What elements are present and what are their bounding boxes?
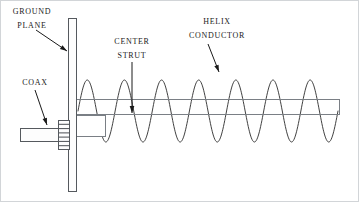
label-ground-plane-line1: GROUND bbox=[13, 7, 51, 16]
arrow-head-coax bbox=[43, 118, 47, 125]
label-coax: COAX bbox=[22, 78, 47, 87]
ground-plane-bar bbox=[69, 19, 77, 192]
label-center-strut-line2: STRUT bbox=[118, 51, 147, 60]
label-helix-conductor-line1: HELIX bbox=[203, 17, 231, 26]
label-center-strut-line1: CENTER bbox=[114, 37, 149, 46]
diagram-canvas: GROUND PLANE COAX CENTER STRUT HELIX CON… bbox=[0, 0, 359, 202]
coax-cable-body bbox=[21, 129, 59, 142]
arrow-head-helix-conductor bbox=[214, 65, 219, 72]
feed-connection-block bbox=[77, 116, 106, 137]
coax-threaded-flange bbox=[59, 121, 70, 150]
helical-antenna-diagram: GROUND PLANE COAX CENTER STRUT HELIX CON… bbox=[0, 0, 359, 202]
label-helix-conductor-line2: CONDUCTOR bbox=[189, 31, 245, 40]
label-ground-plane-line2: PLANE bbox=[17, 21, 46, 30]
arrow-head-ground-plane bbox=[60, 45, 67, 51]
